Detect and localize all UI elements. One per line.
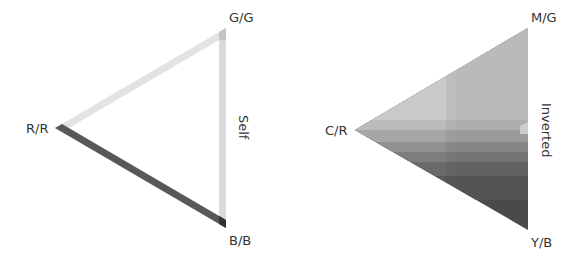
self-bottom-band xyxy=(55,124,226,228)
vertex-label-bb: B/B xyxy=(229,234,251,247)
diagram-title-inverted: Inverted xyxy=(540,103,553,157)
self-triangle xyxy=(55,28,226,228)
diagrams-canvas xyxy=(0,0,584,264)
inverted-vertical-band-2 xyxy=(456,20,528,240)
vertex-label-cr: C/R xyxy=(325,124,348,137)
vertex-label-yb: Y/B xyxy=(531,236,552,249)
self-corner-top xyxy=(219,28,226,40)
inverted-vertical-band-1 xyxy=(446,20,456,240)
vertex-label-rr: R/R xyxy=(26,122,48,135)
vertex-label-mg: M/G xyxy=(531,11,557,24)
self-right-band xyxy=(219,28,226,228)
vertex-label-gg: G/G xyxy=(229,11,254,24)
inverted-triangle xyxy=(340,0,540,240)
diagram-title-self: Self xyxy=(237,115,250,139)
self-top-band xyxy=(55,28,226,132)
